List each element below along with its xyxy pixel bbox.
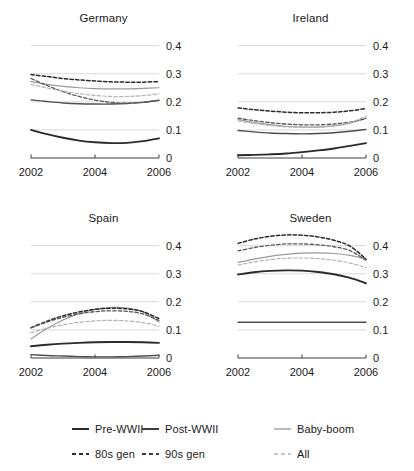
chart-legend: Pre-WWII Post-WWII Baby-boom 80s gen 90s… bbox=[0, 412, 414, 471]
panel-title: Germany bbox=[0, 12, 207, 24]
y-tick-label: 0.1 bbox=[166, 324, 181, 336]
x-tick-label: 2002 bbox=[226, 366, 250, 378]
legend-row-1: Pre-WWII Post-WWII Baby-boom bbox=[0, 418, 414, 440]
series-line-baby-boom bbox=[31, 307, 159, 339]
legend-line-icon bbox=[72, 424, 89, 434]
y-tick-label: 0.2 bbox=[373, 296, 388, 308]
y-tick-label: 0.2 bbox=[373, 96, 388, 108]
x-tick-label: 2006 bbox=[147, 166, 171, 178]
legend-item-pre-wwii: Pre-WWII bbox=[0, 418, 134, 440]
legend-label: 80s gen bbox=[95, 448, 135, 460]
legend-line-icon bbox=[274, 424, 291, 434]
series-line-90s-gen bbox=[31, 311, 159, 328]
x-tick-label: 2004 bbox=[83, 366, 107, 378]
legend-label: 90s gen bbox=[165, 448, 205, 460]
y-tick-label: 0.1 bbox=[166, 124, 181, 136]
series-line-80s-gen bbox=[238, 108, 366, 113]
y-tick-label: 0 bbox=[166, 152, 172, 164]
series-line-pre-wwii bbox=[238, 270, 366, 283]
x-tick-label: 2004 bbox=[290, 366, 314, 378]
y-tick-label: 0 bbox=[166, 352, 172, 364]
y-tick-label: 0.4 bbox=[373, 240, 388, 252]
legend-item-80s-gen: 80s gen bbox=[0, 443, 134, 465]
y-tick-label: 0.1 bbox=[373, 124, 388, 136]
y-tick-label: 0.1 bbox=[373, 324, 388, 336]
x-tick-label: 2006 bbox=[354, 166, 378, 178]
series-line-80s-gen bbox=[31, 308, 159, 327]
x-tick-label: 2002 bbox=[226, 166, 250, 178]
y-tick-label: 0 bbox=[373, 352, 379, 364]
y-tick-label: 0.2 bbox=[166, 296, 181, 308]
legend-label: Baby-boom bbox=[297, 423, 354, 435]
panel-title: Spain bbox=[0, 212, 207, 224]
y-tick-label: 0.3 bbox=[373, 68, 388, 80]
series-line-pre-wwii bbox=[31, 130, 159, 143]
legend-label: All bbox=[297, 448, 310, 460]
series-line-80s-gen bbox=[31, 75, 159, 83]
x-tick-label: 2002 bbox=[19, 366, 43, 378]
y-tick-label: 0.3 bbox=[166, 68, 181, 80]
plot-area: 00.10.20.30.4200220042006 bbox=[0, 0, 207, 200]
chart-figure: 00.10.20.30.4200220042006 Germany 00.10.… bbox=[0, 0, 414, 471]
y-tick-label: 0.2 bbox=[166, 96, 181, 108]
legend-line-icon bbox=[72, 449, 89, 459]
series-line-all bbox=[31, 84, 159, 96]
y-tick-label: 0.4 bbox=[373, 40, 388, 52]
y-tick-label: 0.3 bbox=[166, 268, 181, 280]
y-tick-label: 0 bbox=[373, 152, 379, 164]
series-line-pre-wwii bbox=[31, 342, 159, 346]
y-tick-label: 0.4 bbox=[166, 240, 181, 252]
legend-item-90s-gen: 90s gen bbox=[134, 443, 264, 465]
legend-line-icon bbox=[142, 424, 159, 434]
series-line-all bbox=[238, 258, 366, 268]
legend-item-post-wwii: Post-WWII bbox=[134, 418, 264, 440]
legend-row-2: 80s gen 90s gen All bbox=[0, 443, 414, 465]
legend-item-baby-boom: Baby-boom bbox=[264, 418, 414, 440]
panel-title: Sweden bbox=[207, 212, 414, 224]
panel-title: Ireland bbox=[207, 12, 414, 24]
panel-sweden: 00.10.20.30.4200220042006 Sweden bbox=[207, 200, 414, 400]
legend-label: Post-WWII bbox=[165, 423, 218, 435]
x-tick-label: 2004 bbox=[290, 166, 314, 178]
legend-line-icon bbox=[274, 449, 291, 459]
panel-ireland: 00.10.20.30.4200220042006 Ireland bbox=[207, 0, 414, 200]
x-tick-label: 2006 bbox=[354, 366, 378, 378]
panel-spain: 00.10.20.30.4200220042006 Spain bbox=[0, 200, 207, 400]
legend-line-icon bbox=[142, 449, 159, 459]
panel-germany: 00.10.20.30.4200220042006 Germany bbox=[0, 0, 207, 200]
plot-area: 00.10.20.30.4200220042006 bbox=[207, 200, 414, 400]
x-tick-label: 2004 bbox=[83, 166, 107, 178]
plot-area: 00.10.20.30.4200220042006 bbox=[207, 0, 414, 200]
x-tick-label: 2006 bbox=[147, 366, 171, 378]
y-tick-label: 0.3 bbox=[373, 268, 388, 280]
x-tick-label: 2002 bbox=[19, 166, 43, 178]
y-tick-label: 0.4 bbox=[166, 40, 181, 52]
series-line-pre-wwii bbox=[238, 143, 366, 155]
plot-area: 00.10.20.30.4200220042006 bbox=[0, 200, 207, 400]
legend-item-all: All bbox=[264, 443, 414, 465]
